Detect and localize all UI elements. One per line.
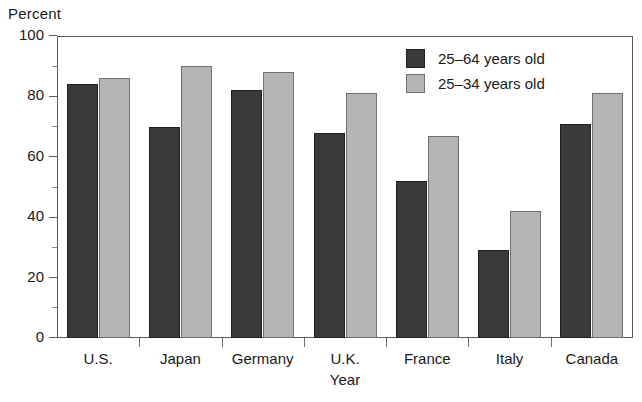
x-axis-tick-label: U.S. (57, 350, 139, 367)
y-axis-tick (49, 156, 57, 157)
bar-canada-series-1 (592, 93, 623, 338)
chart-legend: 25–64 years old 25–34 years old (400, 42, 553, 100)
x-axis-title: Year (304, 371, 386, 388)
legend-item[interactable]: 25–34 years old (406, 71, 545, 96)
x-axis-tick (304, 338, 305, 347)
y-axis-minor-tick (52, 307, 57, 308)
y-axis-tick-label: 40 (0, 207, 44, 224)
y-axis-tick-label: 80 (0, 86, 44, 103)
legend-label-series-1: 25–34 years old (438, 75, 545, 92)
x-axis-tick-label: Canada (551, 350, 633, 367)
bar-italy-series-0 (478, 250, 509, 338)
x-axis-tick (386, 338, 387, 347)
x-axis-tick-label: Japan (139, 350, 221, 367)
bar-france-series-1 (428, 136, 459, 338)
x-axis-tick (551, 338, 552, 347)
bar-germany-series-0 (231, 90, 262, 338)
x-axis-tick-label: Germany (222, 350, 304, 367)
y-axis-tick-label: 20 (0, 268, 44, 285)
bar-japan-series-1 (181, 66, 212, 338)
bar-italy-series-1 (510, 211, 541, 338)
x-axis-tick (139, 338, 140, 347)
legend-swatch-series-0 (406, 49, 425, 68)
bar-canada-series-0 (560, 124, 591, 338)
y-axis-minor-tick (52, 247, 57, 248)
y-axis-tick-label: 0 (0, 328, 44, 345)
y-axis-tick (49, 35, 57, 36)
chart-canvas: Percent 020406080100 U.S.JapanGermanyU.K… (0, 0, 642, 402)
bar-japan-series-0 (149, 127, 180, 338)
bar-germany-series-1 (263, 72, 294, 338)
bar-u-s-series-1 (99, 78, 130, 338)
y-axis-tick (49, 277, 57, 278)
x-axis-tick (222, 338, 223, 347)
y-axis-tick (49, 96, 57, 97)
x-axis-tick (468, 338, 469, 347)
bar-france-series-0 (396, 181, 427, 338)
y-axis-tick (49, 337, 57, 338)
legend-swatch-series-1 (406, 74, 425, 93)
legend-label-series-0: 25–64 years old (438, 50, 545, 67)
bar-u-s-series-0 (67, 84, 98, 338)
legend-item[interactable]: 25–64 years old (406, 46, 545, 71)
y-axis-minor-tick (52, 126, 57, 127)
y-axis-title: Percent (8, 5, 61, 22)
bar-u-k-series-1 (346, 93, 377, 338)
x-axis-tick-label: U.K. (304, 350, 386, 367)
y-axis-tick (49, 217, 57, 218)
y-axis-minor-tick (52, 66, 57, 67)
x-axis-tick-label: France (386, 350, 468, 367)
y-axis-minor-tick (52, 187, 57, 188)
y-axis-tick-label: 60 (0, 147, 44, 164)
bar-u-k-series-0 (314, 133, 345, 338)
y-axis-tick-label: 100 (0, 26, 44, 43)
x-axis-tick-label: Italy (468, 350, 550, 367)
